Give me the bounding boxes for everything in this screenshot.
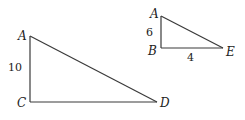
figure: A 10 C D A 6 B 4 E (0, 0, 245, 120)
side-label-ab: 6 (146, 26, 153, 39)
side-ad (30, 36, 157, 102)
side-label-be: 4 (187, 51, 194, 64)
vertex-label-a-large: A (17, 29, 27, 43)
vertex-label-e: E (225, 45, 235, 59)
side-label-ac: 10 (8, 61, 22, 74)
vertex-label-a-small: A (149, 7, 159, 21)
triangle-abe: A 6 B 4 E (146, 7, 235, 64)
vertex-label-c: C (17, 96, 26, 110)
vertex-label-b: B (147, 44, 157, 58)
triangle-acd: A 10 C D (8, 29, 170, 110)
vertex-label-d: D (159, 96, 170, 110)
side-ae (161, 16, 223, 48)
